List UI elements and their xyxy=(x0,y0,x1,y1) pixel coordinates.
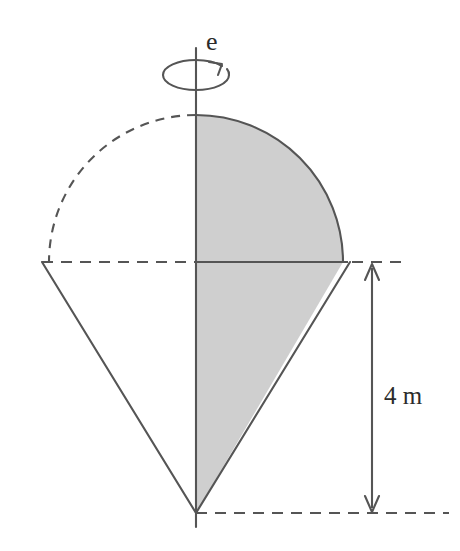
rotating-solid-diagram: e 4 m xyxy=(0,0,460,551)
diagram-canvas: e 4 m xyxy=(0,0,460,551)
dimension-label: 4 m xyxy=(384,382,423,409)
axis-label-e: e xyxy=(206,27,218,56)
